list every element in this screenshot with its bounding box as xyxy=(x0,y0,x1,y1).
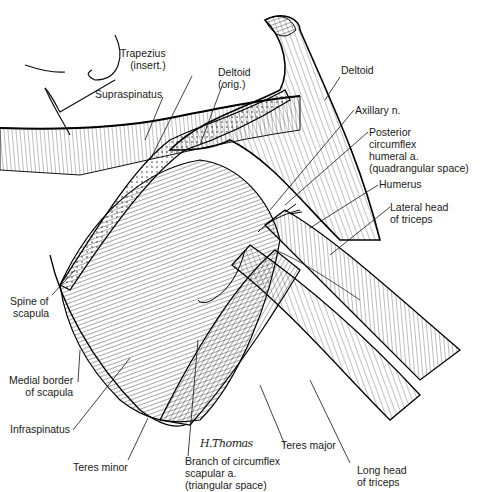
label-line: Deltoid xyxy=(341,64,374,76)
label-branch-circumflex-scapular: Branch of circumflex scapular a. (triang… xyxy=(185,455,280,491)
label-line: Supraspinatus xyxy=(95,88,162,100)
neck-outline xyxy=(25,35,120,135)
label-long-head-triceps: Long head of triceps xyxy=(357,464,407,488)
label-teres-minor: Teres minor xyxy=(73,461,128,473)
label-line: Humerus xyxy=(379,178,422,190)
label-line: Teres major xyxy=(281,439,336,451)
label-line: (triangular space) xyxy=(185,479,280,491)
label-line: of triceps xyxy=(357,476,407,488)
label-lateral-head-triceps: Lateral head of triceps xyxy=(390,201,448,225)
label-line: Trapezius xyxy=(120,47,166,59)
label-line: Long head xyxy=(357,464,407,476)
label-line: Branch of circumflex xyxy=(185,455,280,467)
label-posterior-circumflex: Posterior circumflex humeral a. (quadran… xyxy=(369,126,469,174)
artist-signature: H.Thomas xyxy=(200,437,253,450)
label-teres-major: Teres major xyxy=(281,439,336,451)
label-line: Infraspinatus xyxy=(10,423,70,435)
label-line: humeral a. xyxy=(369,150,469,162)
label-line: circumflex xyxy=(369,138,469,150)
label-line: Deltoid xyxy=(218,66,251,78)
label-line: Lateral head xyxy=(390,201,448,213)
label-axillary-n: Axillary n. xyxy=(355,104,401,116)
label-line: Teres minor xyxy=(73,461,128,473)
label-line: scapular a. xyxy=(185,467,280,479)
label-line: of triceps xyxy=(390,213,448,225)
label-line: Posterior xyxy=(369,126,469,138)
anatomy-diagram: Trapezius (insert.) Deltoid (orig.) Supr… xyxy=(0,0,487,492)
label-deltoid-orig: Deltoid (orig.) xyxy=(218,66,251,90)
label-deltoid: Deltoid xyxy=(341,64,374,76)
label-supraspinatus: Supraspinatus xyxy=(95,88,162,100)
label-line: (insert.) xyxy=(120,59,166,71)
label-line: Spine of xyxy=(10,295,49,307)
label-line: (quadrangular space) xyxy=(369,162,469,174)
label-infraspinatus: Infraspinatus xyxy=(10,423,70,435)
label-line: of scapula xyxy=(9,386,73,398)
label-medial-border-scapula: Medial border of scapula xyxy=(9,374,73,398)
label-trapezius: Trapezius (insert.) xyxy=(120,47,166,71)
label-line: scapula xyxy=(10,307,49,319)
label-line: Medial border xyxy=(9,374,73,386)
label-line: (orig.) xyxy=(218,78,251,90)
label-spine-of-scapula: Spine of scapula xyxy=(10,295,49,319)
label-humerus: Humerus xyxy=(379,178,422,190)
label-line: Axillary n. xyxy=(355,104,401,116)
